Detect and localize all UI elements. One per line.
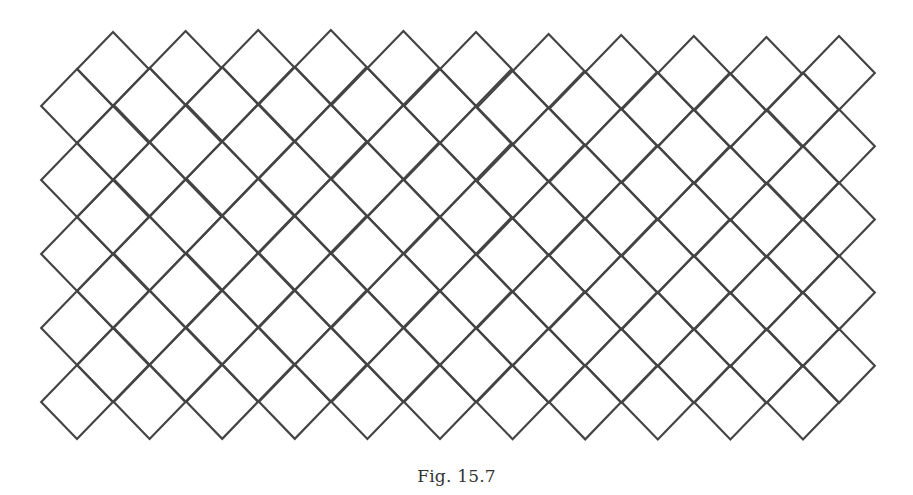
diamond-cell	[658, 256, 730, 330]
diamond-cell	[695, 293, 767, 367]
diamond-cell	[803, 256, 875, 330]
diamond-cell	[803, 329, 875, 403]
diamond-cell	[585, 35, 657, 109]
diamond-cell	[404, 291, 476, 365]
diamond-cell	[513, 328, 585, 402]
diamond-cell	[658, 36, 730, 110]
diamond-cell	[440, 180, 512, 254]
diamond-cell	[767, 219, 839, 293]
diamond-cell	[222, 179, 294, 253]
diamond-cell	[77, 180, 149, 254]
diamond-cell	[622, 73, 694, 147]
diamond-cell	[585, 329, 657, 403]
diamond-cell	[803, 36, 875, 110]
diamond-cell	[186, 365, 258, 439]
diamond-cell	[41, 143, 113, 217]
diamond-cell	[404, 143, 476, 217]
diamond-cell	[440, 106, 512, 180]
diamond-cell	[368, 179, 440, 253]
diamond-cell	[259, 216, 331, 290]
diamond-cell	[767, 73, 839, 147]
figure-caption: Fig. 15.7	[0, 466, 913, 486]
diamond-cell	[332, 68, 404, 142]
diamond-cell	[767, 365, 839, 439]
diamond-cell	[695, 147, 767, 221]
diamond-cell	[731, 329, 803, 403]
diamond-cell	[440, 328, 512, 402]
diamond-cell	[186, 67, 258, 141]
diamond-cell	[259, 67, 331, 141]
diamond-cell	[731, 183, 803, 257]
diamond-cell	[222, 253, 294, 327]
diamond-cell	[114, 142, 186, 216]
diamond-cell	[150, 31, 222, 105]
diamond-cell	[41, 217, 113, 291]
diamond-cells	[41, 30, 875, 440]
diamond-cell	[440, 32, 512, 106]
diamond-cell	[622, 365, 694, 439]
diamond-cell	[549, 292, 621, 366]
diamond-cell	[477, 292, 549, 366]
diamond-cell	[658, 109, 730, 183]
diamond-cell	[41, 365, 113, 439]
diamond-cell	[585, 255, 657, 329]
diamond-cell	[695, 366, 767, 440]
diamond-cell	[477, 365, 549, 439]
diamond-cell	[332, 142, 404, 216]
diamond-cell	[695, 74, 767, 148]
diamond-cell	[513, 108, 585, 182]
diamond-cell	[259, 142, 331, 216]
diamond-cell	[114, 365, 186, 439]
diamond-cell	[77, 32, 149, 106]
diamond-cell	[549, 145, 621, 219]
diamond-cell	[114, 68, 186, 142]
diamond-cell	[658, 329, 730, 403]
diamond-cell	[295, 253, 367, 327]
diamond-cell	[477, 71, 549, 145]
diamond-cell	[477, 218, 549, 292]
diamond-cell	[731, 110, 803, 184]
diamond-cell	[295, 104, 367, 178]
diamond-cell	[695, 220, 767, 294]
diamond-cell	[332, 291, 404, 365]
diamond-cell	[549, 365, 621, 439]
diamond-cell	[731, 37, 803, 111]
diamond-cell	[585, 182, 657, 256]
diamond-cell	[259, 290, 331, 364]
diamond-cell	[150, 254, 222, 328]
diamond-cell	[186, 142, 258, 216]
diamond-cell	[77, 106, 149, 180]
diamond-cell	[803, 109, 875, 183]
diamond-cell	[150, 328, 222, 402]
diamond-cell	[222, 328, 294, 402]
diamond-cell	[114, 291, 186, 365]
diamond-cell	[368, 254, 440, 328]
diamond-cell	[404, 69, 476, 143]
diamond-cell	[622, 219, 694, 293]
diamond-cell	[150, 105, 222, 179]
diamond-cell	[77, 328, 149, 402]
diamond-cell	[295, 179, 367, 253]
diamond-cell	[368, 31, 440, 105]
diamond-cell	[477, 144, 549, 218]
diamond-cell	[731, 256, 803, 330]
diamond-cell	[585, 108, 657, 182]
diamond-cell	[440, 254, 512, 328]
diamond-cell	[259, 365, 331, 439]
diamond-cell	[295, 328, 367, 402]
diamond-cell	[186, 216, 258, 290]
diamond-cell	[332, 365, 404, 439]
diamond-cell	[368, 328, 440, 402]
diamond-cell	[114, 217, 186, 291]
diamond-cell	[295, 30, 367, 104]
diamond-cell	[622, 292, 694, 366]
diamond-cell	[332, 217, 404, 291]
diamond-cell	[41, 291, 113, 365]
diamond-cell	[513, 181, 585, 255]
diamond-cell	[368, 105, 440, 179]
diamond-cell	[186, 290, 258, 364]
diamond-cell	[404, 365, 476, 439]
diamond-cell	[513, 34, 585, 108]
diamond-cell	[222, 104, 294, 178]
diamond-cell	[658, 182, 730, 256]
